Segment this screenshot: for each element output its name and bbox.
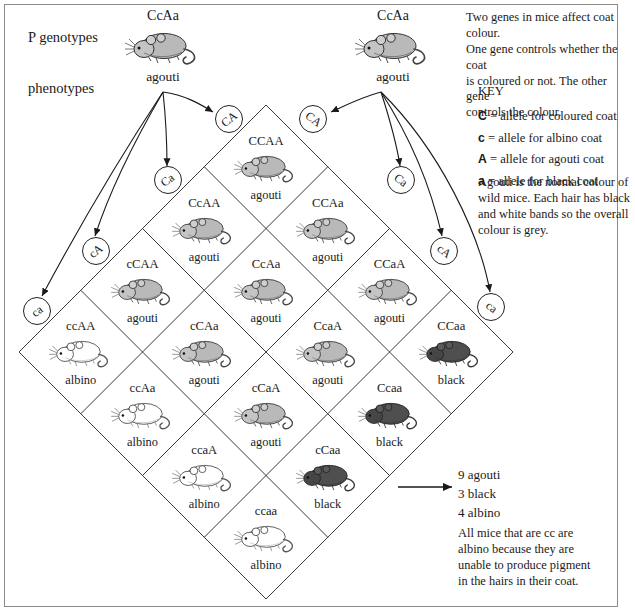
ratio-black: 3 black	[458, 485, 500, 504]
mouse-black-icon	[354, 396, 426, 435]
cell-genotype: ccAA	[36, 319, 126, 334]
cell-genotype: cCaA	[221, 381, 311, 396]
allele-symbol: A	[478, 152, 487, 166]
mouse-agouti-icon	[120, 25, 206, 71]
punnett-cell: ccaA albino	[159, 443, 249, 512]
punnett-cell: CCaA agouti	[345, 257, 435, 326]
mouse-agouti-icon	[168, 211, 240, 250]
cell-genotype: cCAA	[98, 257, 188, 272]
punnett-cell: cCAa agouti	[159, 319, 249, 388]
punnett-cell: CCaa black	[406, 319, 496, 388]
mouse-agouti-icon	[292, 211, 364, 250]
punnett-cell: CCAA agouti	[221, 134, 311, 203]
cell-genotype: CCaa	[406, 319, 496, 334]
punnett-cell: CcAa agouti	[221, 257, 311, 326]
allele-description: = allele for agouti coat	[490, 152, 604, 166]
cell-genotype: CcAA	[159, 196, 249, 211]
label-p-genotypes: P genotypes	[28, 29, 98, 46]
punnett-cell: ccaa albino	[221, 504, 311, 573]
cell-genotype: cCAa	[159, 319, 249, 334]
cell-genotype: cCaa	[283, 443, 373, 458]
mouse-agouti-icon	[354, 272, 426, 311]
albino-note-line-3: unable to produce pigment	[458, 558, 618, 574]
agouti-note-line-2: wild mice. Each hair has black	[478, 191, 635, 207]
agouti-note: Agouti is the normal colour of wild mice…	[478, 175, 635, 239]
parent-left: CcAa agouti	[103, 8, 223, 85]
mouse-agouti-icon	[292, 334, 364, 373]
cell-genotype: ccAa	[98, 381, 188, 396]
cell-genotype: CCAA	[221, 134, 311, 149]
allele-symbol: C	[478, 109, 487, 123]
key-heading: KEY	[478, 83, 635, 99]
punnett-cell: CCAa agouti	[283, 196, 373, 265]
punnett-cell: Ccaa black	[345, 381, 435, 450]
punnett-cell: CcAA agouti	[159, 196, 249, 265]
punnett-cell: ccAA albino	[36, 319, 126, 388]
allele-symbol: c	[478, 131, 485, 145]
albino-note: All mice that are cc are albino because …	[458, 526, 618, 590]
parent-right-genotype: CcAa	[333, 8, 453, 24]
mouse-black-icon	[292, 458, 364, 497]
intro-line-2: One gene controls whether the coat	[466, 42, 626, 74]
punnett-cell: cCAA agouti	[98, 257, 188, 326]
parent-right: CcAa agouti	[333, 8, 453, 85]
cell-genotype: CcAa	[221, 257, 311, 272]
mouse-albino-icon	[168, 458, 240, 497]
allele-description: = allele for albino coat	[488, 131, 602, 145]
mouse-agouti-icon	[107, 272, 179, 311]
albino-note-line-4: in the hairs in their coat.	[458, 574, 618, 590]
mouse-agouti-icon	[230, 272, 302, 311]
cell-genotype: ccaa	[221, 504, 311, 519]
parent-right-phenotype: agouti	[333, 69, 453, 85]
mouse-albino-icon	[230, 519, 302, 558]
albino-note-line-1: All mice that are cc are	[458, 526, 618, 542]
key-entry-c: c = allele for albino coat	[478, 130, 635, 147]
mouse-agouti-icon	[230, 396, 302, 435]
mouse-black-icon	[415, 334, 487, 373]
intro-line-1: Two genes in mice affect coat colour.	[466, 10, 626, 42]
key-entry-A: A = allele for agouti coat	[478, 151, 635, 168]
cell-genotype: CcaA	[283, 319, 373, 334]
mouse-agouti-icon	[168, 334, 240, 373]
punnett-cell: ccAa albino	[98, 381, 188, 450]
punnett-cell: cCaa black	[283, 443, 373, 512]
punnett-cell: cCaA agouti	[221, 381, 311, 450]
parent-left-genotype: CcAa	[103, 8, 223, 24]
albino-note-line-2: albino because they are	[458, 542, 618, 558]
parent-left-phenotype: agouti	[103, 69, 223, 85]
mouse-agouti-icon	[350, 25, 436, 71]
key-entry-C: C = allele for coloured coat	[478, 108, 635, 125]
cell-genotype: ccaA	[159, 443, 249, 458]
agouti-note-line-3: and white bands so the overall	[478, 207, 635, 223]
ratio-block: 9 agouti 3 black 4 albino	[458, 466, 500, 523]
mouse-agouti-icon	[230, 149, 302, 188]
mouse-albino-icon	[107, 396, 179, 435]
mouse-albino-icon	[45, 334, 117, 373]
cell-genotype: Ccaa	[345, 381, 435, 396]
cell-genotype: CCaA	[345, 257, 435, 272]
punnett-cell: CcaA agouti	[283, 319, 373, 388]
cell-phenotype: albino	[221, 558, 311, 573]
cell-genotype: CCAa	[283, 196, 373, 211]
agouti-note-line-4: colour is grey.	[478, 223, 635, 239]
label-phenotypes: phenotypes	[28, 80, 94, 97]
ratio-albino: 4 albino	[458, 504, 500, 523]
agouti-note-line-1: Agouti is the normal colour of	[478, 175, 635, 191]
punnett-square: CCAA agoutiCCAa agoutiCCaA	[18, 100, 514, 604]
allele-description: = allele for coloured coat	[490, 109, 617, 123]
ratio-agouti: 9 agouti	[458, 466, 500, 485]
